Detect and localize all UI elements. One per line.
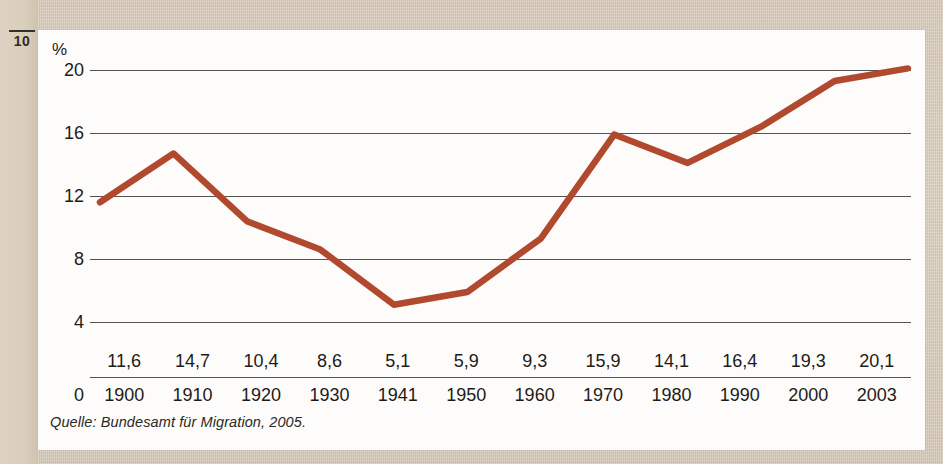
year-cell: 1960: [500, 378, 568, 409]
value-cell: 16,4: [706, 348, 774, 378]
value-cell: 14,7: [158, 348, 226, 378]
year-cell: 1900: [90, 378, 158, 409]
year-cell: 1920: [227, 378, 295, 409]
year-cell: 1950: [432, 378, 500, 409]
line-series-path: [100, 68, 908, 304]
year-cell: 1910: [158, 378, 226, 409]
year-cell: 2000: [774, 378, 842, 409]
value-cell: 20,1: [842, 348, 911, 378]
year-cell: 1980: [637, 378, 705, 409]
value-cell: 5,1: [364, 348, 432, 378]
value-cell: 19,3: [774, 348, 842, 378]
source-note: Quelle: Bundesamt für Migration, 2005.: [50, 414, 306, 430]
value-cell: 14,1: [637, 348, 705, 378]
year-cell: 1970: [569, 378, 637, 409]
y-axis-zero-label: 0: [38, 385, 84, 406]
year-cell: 1990: [706, 378, 774, 409]
value-cell: 5,9: [432, 348, 500, 378]
table-row-years: 1900191019201930194119501960197019801990…: [90, 378, 911, 409]
value-year-table: 11,614,710,48,65,15,99,315,914,116,419,3…: [90, 348, 911, 408]
table-row-values: 11,614,710,48,65,15,99,315,914,116,419,3…: [90, 348, 911, 378]
value-cell: 9,3: [500, 348, 568, 378]
value-cell: 8,6: [295, 348, 363, 378]
page-number: 10: [9, 30, 35, 49]
year-cell: 1930: [295, 378, 363, 409]
value-cell: 15,9: [569, 348, 637, 378]
value-cell: 11,6: [90, 348, 158, 378]
scanned-page: 10 % 20161284 0 11,614,710,48,65,15,99,3…: [0, 0, 943, 464]
figure-card: % 20161284 0 11,614,710,48,65,15,99,315,…: [38, 30, 925, 450]
value-cell: 10,4: [227, 348, 295, 378]
year-cell: 2003: [842, 378, 911, 409]
year-cell: 1941: [364, 378, 432, 409]
